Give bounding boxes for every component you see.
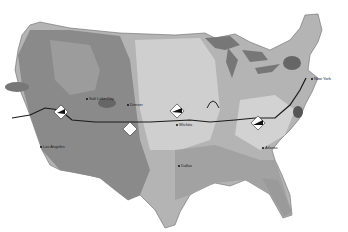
city-label: Salt Lake City — [86, 96, 114, 101]
city-label: Wichita — [176, 122, 192, 127]
city-label: Atlanta — [262, 145, 277, 150]
us-map — [0, 0, 348, 232]
great-plains — [135, 38, 220, 150]
city-label: New York — [311, 76, 331, 81]
city-label: Los Angeles — [40, 144, 65, 149]
city-label: Dallas — [178, 163, 192, 168]
city-label: Denver — [127, 102, 143, 107]
